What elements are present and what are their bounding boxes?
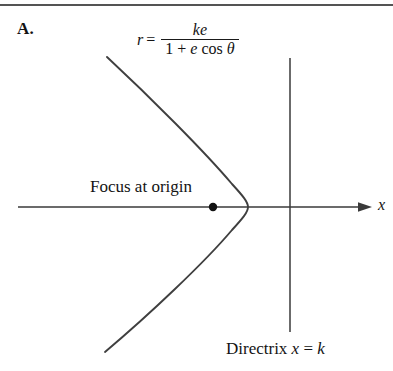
denominator-one-plus: 1 + [165, 40, 190, 57]
x-axis-arrowhead-icon [358, 202, 372, 212]
directrix-caption-equals: = [299, 339, 317, 358]
panel-letter: A. [17, 20, 34, 37]
denominator-theta: θ [227, 40, 235, 57]
equation-denominator: 1 + e cos θ [161, 40, 238, 57]
conic-curve-path [105, 57, 248, 352]
focus-point-marker [209, 203, 217, 211]
conic-section-figure: A. r = ke 1 + e cos θ Focus at origin Di… [0, 0, 393, 371]
directrix-caption: Directrix x = k [226, 340, 325, 357]
x-axis-label: x [378, 197, 385, 213]
focus-caption: Focus at origin [90, 178, 192, 195]
directrix-caption-k: k [317, 339, 325, 358]
equation-numerator: ke [187, 22, 213, 39]
denominator-cos: cos [197, 40, 226, 57]
equation-equals-sign: = [146, 32, 155, 48]
equation-fraction: ke 1 + e cos θ [161, 22, 238, 57]
polar-equation: r = ke 1 + e cos θ [137, 22, 239, 57]
equation-left-side: r [137, 32, 143, 48]
directrix-caption-word: Directrix [226, 339, 292, 358]
